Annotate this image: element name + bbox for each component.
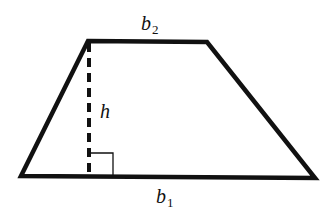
trapezoid-outline <box>21 41 315 178</box>
label-h-var: h <box>100 100 110 122</box>
label-b2-sub: 2 <box>152 22 159 37</box>
label-b1-var: b <box>156 185 166 207</box>
right-angle-marker <box>89 153 113 176</box>
label-h-height: h <box>100 101 110 121</box>
label-b2-var: b <box>141 12 151 34</box>
label-b2-top-base: b2 <box>141 13 159 36</box>
label-b1-sub: 1 <box>167 195 174 210</box>
label-b1-bottom-base: b1 <box>156 186 174 209</box>
